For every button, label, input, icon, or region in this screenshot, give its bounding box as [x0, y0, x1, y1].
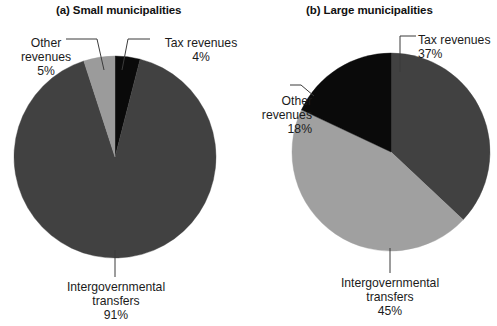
callout-line: transfers: [310, 290, 470, 304]
callout-tax-revenues-small: Tax revenues 4%: [153, 36, 249, 64]
callout-line: Other: [4, 36, 88, 50]
callout-line: Tax revenues: [418, 33, 496, 47]
pie-chart-large-municipalities: [292, 53, 490, 251]
callout-value: 91%: [36, 308, 196, 322]
callout-intergovernmental-transfers-large: Intergovernmental transfers 45%: [310, 276, 470, 319]
callout-line: revenues: [238, 108, 312, 122]
callout-intergovernmental-transfers-small: Intergovernmental transfers 91%: [36, 280, 196, 323]
callout-value: 5%: [4, 64, 88, 78]
callout-line: transfers: [36, 294, 196, 308]
callout-value: 18%: [238, 122, 312, 136]
callout-tax-revenues-large: Tax revenues 37%: [418, 33, 496, 61]
callout-line: Other: [238, 94, 312, 108]
callout-line: Tax revenues: [153, 36, 249, 50]
callout-value: 4%: [153, 50, 249, 64]
callout-other-revenues-small: Other revenues 5%: [4, 36, 88, 79]
pie-chart-small-municipalities: [14, 56, 216, 258]
callout-line: Intergovernmental: [36, 280, 196, 294]
figure-two-pie-charts: (a) Small municipalities (b) Large munic…: [0, 0, 497, 326]
callout-line: revenues: [4, 50, 88, 64]
callout-value: 45%: [310, 304, 470, 318]
callout-line: Intergovernmental: [310, 276, 470, 290]
callout-value: 37%: [418, 47, 496, 61]
callout-other-revenues-large: Other revenues 18%: [238, 94, 312, 137]
